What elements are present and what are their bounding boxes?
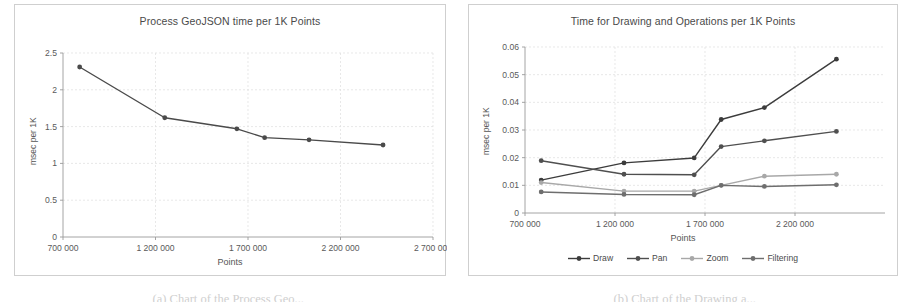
svg-text:2 200 000: 2 200 000 <box>321 243 359 253</box>
svg-text:2 700 000: 2 700 000 <box>414 243 447 253</box>
svg-text:0.02: 0.02 <box>502 153 519 163</box>
svg-text:0.03: 0.03 <box>502 125 519 135</box>
legend-item-pan[interactable]: Pan <box>627 253 667 263</box>
svg-text:1 700 000: 1 700 000 <box>229 243 267 253</box>
x-axis-title-left: Points <box>15 257 445 267</box>
svg-text:0.05: 0.05 <box>502 70 519 80</box>
legend-label: Zoom <box>705 253 728 263</box>
svg-text:1.5: 1.5 <box>45 122 57 132</box>
svg-text:0.01: 0.01 <box>502 180 519 190</box>
svg-text:0.5: 0.5 <box>45 195 57 205</box>
figure-row: Process GeoJSON time per 1K Points msec … <box>0 0 913 302</box>
svg-text:1: 1 <box>52 158 57 168</box>
legend-item-draw[interactable]: Draw <box>568 253 613 263</box>
figure-caption-row: (a) Chart of the Process Geo... (b) Char… <box>0 286 913 302</box>
chart-legend: DrawPanZoomFiltering <box>469 253 897 263</box>
legend-label: Pan <box>651 253 667 263</box>
svg-text:1 700 000: 1 700 000 <box>686 219 724 229</box>
caption-right: (b) Chart of the Drawing a... <box>457 286 913 302</box>
svg-text:2 200 000: 2 200 000 <box>776 219 814 229</box>
svg-text:0: 0 <box>514 208 519 218</box>
legend-marker-icon <box>742 254 764 263</box>
svg-text:1 200 000: 1 200 000 <box>596 219 634 229</box>
svg-text:0: 0 <box>52 232 57 242</box>
legend-marker-icon <box>568 254 590 263</box>
svg-text:0.04: 0.04 <box>502 97 519 107</box>
svg-text:0.06: 0.06 <box>502 42 519 52</box>
legend-marker-icon <box>627 254 649 263</box>
svg-text:2.5: 2.5 <box>45 48 57 58</box>
svg-text:2: 2 <box>52 85 57 95</box>
x-axis-title-right: Points <box>469 233 897 243</box>
chart-panel-drawing-operations: Time for Drawing and Operations per 1K P… <box>468 4 898 276</box>
legend-item-filtering[interactable]: Filtering <box>742 253 798 263</box>
caption-left: (a) Chart of the Process Geo... <box>0 286 457 302</box>
legend-marker-icon <box>681 254 703 263</box>
chart-panel-process-geojson: Process GeoJSON time per 1K Points msec … <box>14 4 446 276</box>
svg-text:1 200 000: 1 200 000 <box>136 243 174 253</box>
svg-text:700 000: 700 000 <box>47 243 78 253</box>
legend-item-zoom[interactable]: Zoom <box>681 253 728 263</box>
legend-label: Filtering <box>766 253 798 263</box>
svg-text:700 000: 700 000 <box>509 219 540 229</box>
legend-label: Draw <box>592 253 613 263</box>
plot-area-left: 00.511.522.5700 0001 200 0001 700 0002 2… <box>15 5 447 277</box>
